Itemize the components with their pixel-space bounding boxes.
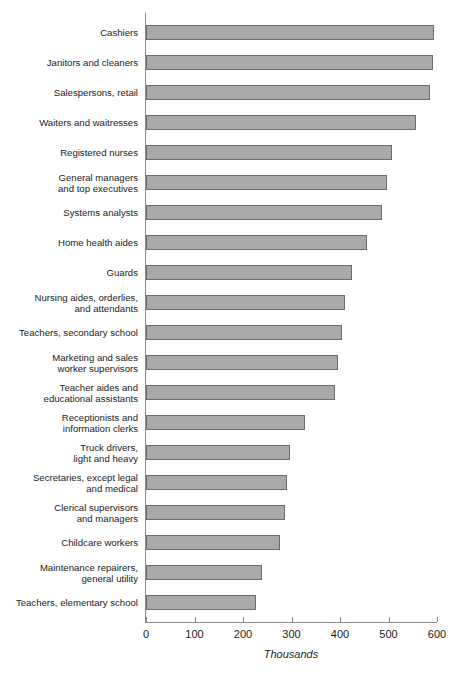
bar-row: Systems analysts [0, 199, 455, 229]
x-tick-label: 600 [417, 628, 455, 640]
bar [146, 265, 352, 280]
x-axis: Thousands 0100200300400500600 [0, 622, 455, 678]
bar-category-label: Teacher aides and educational assistants [0, 382, 138, 405]
bar-category-label: Salespersons, retail [0, 87, 138, 98]
bar-category-label: Registered nurses [0, 147, 138, 158]
bar-row: Guards [0, 259, 455, 289]
x-tick-label: 0 [126, 628, 166, 640]
bar-category-label: Systems analysts [0, 207, 138, 218]
bar-row: Clerical supervisors and managers [0, 499, 455, 529]
bar-row: Registered nurses [0, 139, 455, 169]
bar-row: Receptionists and information clerks [0, 409, 455, 439]
chart-title-strip [0, 0, 455, 13]
x-tick-label: 300 [272, 628, 312, 640]
x-tick-mark [243, 617, 244, 622]
bar-row: Janitors and cleaners [0, 49, 455, 79]
bar [146, 505, 285, 520]
bar-row: Nursing aides, orderlies, and attendants [0, 289, 455, 319]
x-tick-mark [340, 617, 341, 622]
bar-category-label: Secretaries, except legal and medical [0, 472, 138, 495]
x-tick-mark [146, 617, 147, 622]
bar-category-label: Guards [0, 267, 138, 278]
bar-row: Truck drivers, light and heavy [0, 439, 455, 469]
bar [146, 25, 434, 40]
bar-row: General managers and top executives [0, 169, 455, 199]
bar [146, 475, 287, 490]
bar-row: Waiters and waitresses [0, 109, 455, 139]
bar [146, 445, 290, 460]
bar [146, 565, 262, 580]
bar [146, 205, 382, 220]
bar-row: Maintenance repairers, general utility [0, 559, 455, 589]
bar-category-label: Clerical supervisors and managers [0, 502, 138, 525]
bar-category-label: Cashiers [0, 27, 138, 38]
bar-row: Teachers, secondary school [0, 319, 455, 349]
bar-category-label: Teachers, secondary school [0, 327, 138, 338]
bar-category-label: Janitors and cleaners [0, 57, 138, 68]
bar [146, 115, 416, 130]
bar-row: Marketing and sales worker supervisors [0, 349, 455, 379]
bar [146, 235, 367, 250]
bar-category-label: General managers and top executives [0, 172, 138, 195]
bar-row: Cashiers [0, 19, 455, 49]
bar-row: Teachers, elementary school [0, 589, 455, 619]
bar [146, 55, 433, 70]
bar-category-label: Childcare workers [0, 537, 138, 548]
bar-category-label: Teachers, elementary school [0, 597, 138, 608]
bar [146, 415, 305, 430]
bar [146, 85, 430, 100]
bar-category-label: Marketing and sales worker supervisors [0, 352, 138, 375]
bar [146, 385, 335, 400]
bar-category-label: Receptionists and information clerks [0, 412, 138, 435]
x-tick-mark [292, 617, 293, 622]
bar-category-label: Nursing aides, orderlies, and attendants [0, 292, 138, 315]
x-tick-label: 100 [175, 628, 215, 640]
x-axis-title: Thousands [145, 648, 437, 660]
bars-layer: CashiersJanitors and cleanersSalesperson… [0, 13, 455, 623]
bar-row: Teacher aides and educational assistants [0, 379, 455, 409]
bar-row: Home health aides [0, 229, 455, 259]
bar [146, 295, 345, 310]
bar-category-label: Truck drivers, light and heavy [0, 442, 138, 465]
bar-category-label: Maintenance repairers, general utility [0, 562, 138, 585]
bar-row: Childcare workers [0, 529, 455, 559]
bar-category-label: Waiters and waitresses [0, 117, 138, 128]
x-tick-mark [437, 617, 438, 622]
bar [146, 355, 338, 370]
bar [146, 175, 387, 190]
bar-row: Secretaries, except legal and medical [0, 469, 455, 499]
bar [146, 595, 256, 610]
bar [146, 325, 342, 340]
x-tick-label: 200 [223, 628, 263, 640]
bar-row: Salespersons, retail [0, 79, 455, 109]
bar [146, 535, 280, 550]
bar [146, 145, 392, 160]
plot-area: CashiersJanitors and cleanersSalesperson… [0, 13, 455, 678]
bar-category-label: Home health aides [0, 237, 138, 248]
x-tick-mark [389, 617, 390, 622]
x-tick-label: 400 [320, 628, 360, 640]
x-tick-mark [195, 617, 196, 622]
x-tick-label: 500 [369, 628, 409, 640]
